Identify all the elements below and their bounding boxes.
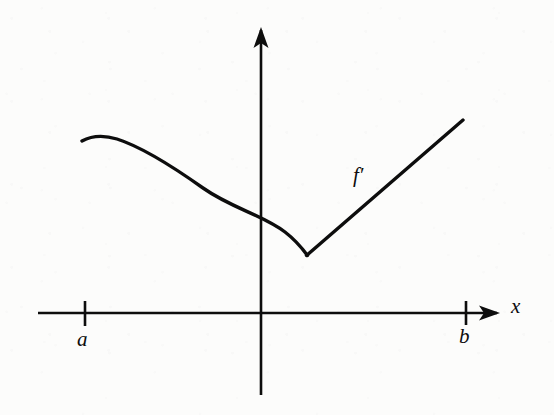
fprime-graph-group bbox=[82, 120, 463, 256]
plot-canvas bbox=[0, 0, 554, 415]
axis-group bbox=[38, 27, 500, 395]
tick-label-b: b bbox=[459, 326, 470, 347]
x-axis-label: x bbox=[511, 296, 520, 317]
fprime-curve-label: f′ bbox=[353, 165, 363, 186]
tick-label-a: a bbox=[77, 329, 88, 350]
fprime-line-segment bbox=[307, 120, 464, 256]
figure-root: a b x f′ bbox=[0, 0, 554, 415]
fprime-curve-segment bbox=[82, 136, 308, 255]
